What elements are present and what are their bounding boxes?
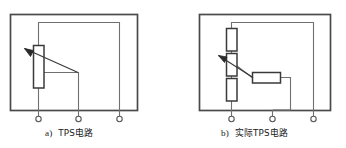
panel-a-caption-text: TPS电路: [58, 128, 93, 138]
panel-b-caption-text: 实际TPS电路: [235, 128, 288, 138]
panel-b-resistor-bottom: [227, 79, 238, 102]
panel-a-caption: a)TPS电路: [45, 126, 93, 139]
panel-b-caption: b)实际TPS电路: [221, 126, 288, 139]
panel-a-wiper-arrowhead: [25, 49, 34, 57]
panel-b-terminal-3: [311, 116, 316, 121]
panel-b-wiper-arrowhead: [219, 56, 228, 63]
panel-b-resistor-series: [253, 73, 281, 84]
panel-b-terminal-2: [270, 116, 275, 121]
panel-a-terminal-1: [36, 116, 41, 121]
panel-a-terminal-3: [117, 116, 122, 121]
panel-a-terminal-2: [76, 116, 81, 121]
panel-a-enclosure: [11, 15, 138, 111]
panel-b-circuit: [200, 15, 331, 122]
panel-a-circuit: [11, 15, 138, 122]
panel-b-enclosure: [200, 15, 331, 111]
panel-b-resistor-top: [227, 29, 238, 52]
panel-a-caption-label: a): [45, 128, 52, 138]
panel-a-potentiometer-body: [34, 46, 45, 89]
panel-b-terminal-1: [229, 116, 234, 121]
figure-root: a)TPS电路 b)实际TPS电路: [0, 0, 346, 148]
panel-b-output-wire: [280, 78, 291, 111]
panel-b-top-wire: [232, 23, 314, 111]
panel-b-caption-label: b): [221, 128, 229, 138]
panel-b-potentiometer-body: [227, 54, 238, 77]
